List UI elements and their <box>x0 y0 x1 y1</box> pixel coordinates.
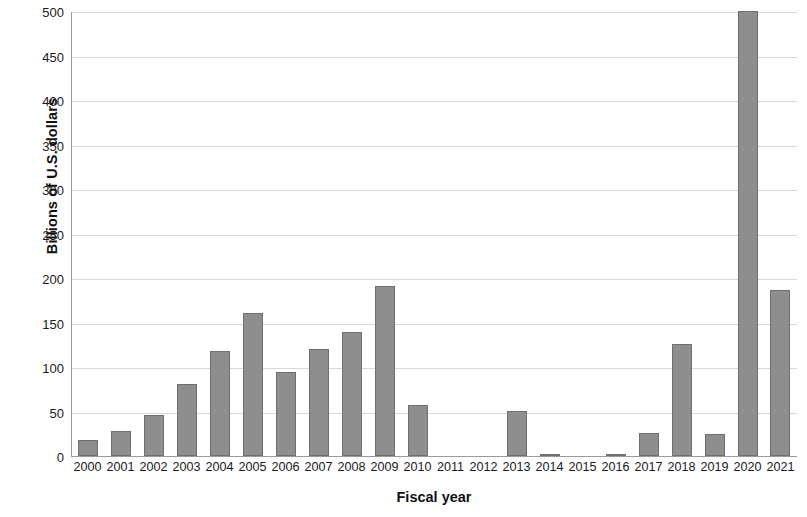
x-tick-label: 2016 <box>599 461 632 481</box>
bar-slot <box>270 12 303 456</box>
x-tick-label: 2019 <box>698 461 731 481</box>
x-tick-label: 2015 <box>566 461 599 481</box>
y-tick-label: 500 <box>26 6 64 19</box>
bar[interactable] <box>177 384 197 456</box>
x-tick-label: 2006 <box>269 461 302 481</box>
x-tick-label: 2014 <box>533 461 566 481</box>
bar-slot <box>467 12 500 456</box>
y-tick-label: 150 <box>26 317 64 330</box>
bar-slot <box>500 12 533 456</box>
y-tick-label: 450 <box>26 50 64 63</box>
y-tick-label: 50 <box>26 406 64 419</box>
x-tick-label: 2007 <box>302 461 335 481</box>
bar-slot <box>369 12 402 456</box>
x-tick-label: 2010 <box>401 461 434 481</box>
bar[interactable] <box>606 454 626 456</box>
x-tick-label: 2004 <box>203 461 236 481</box>
y-axis-tick-labels: 500450400350300250200150100500 <box>26 0 64 517</box>
x-tick-label: 2017 <box>632 461 665 481</box>
x-tick-label: 2003 <box>170 461 203 481</box>
bar[interactable] <box>705 434 725 456</box>
x-tick-label: 2021 <box>764 461 797 481</box>
x-tick-label: 2011 <box>434 461 467 481</box>
x-axis-tick-labels: 2000200120022003200420052006200720082009… <box>71 461 797 481</box>
x-tick-label: 2020 <box>731 461 764 481</box>
bar[interactable] <box>309 349 329 456</box>
y-tick-label: 350 <box>26 139 64 152</box>
bar-slot <box>204 12 237 456</box>
x-tick-label: 2001 <box>104 461 137 481</box>
bar[interactable] <box>78 440 98 456</box>
x-tick-label: 2009 <box>368 461 401 481</box>
bar-slot <box>665 12 698 456</box>
bar[interactable] <box>276 372 296 456</box>
x-tick-label: 2013 <box>500 461 533 481</box>
bar[interactable] <box>738 11 758 456</box>
y-tick-label: 250 <box>26 228 64 241</box>
y-tick-label: 200 <box>26 273 64 286</box>
x-tick-label: 2002 <box>137 461 170 481</box>
bar-slot <box>434 12 467 456</box>
bar-slot <box>731 12 764 456</box>
x-tick-label: 2000 <box>71 461 104 481</box>
bar[interactable] <box>770 290 790 456</box>
bar-slot <box>402 12 435 456</box>
bar-slot <box>105 12 138 456</box>
bar[interactable] <box>111 431 131 456</box>
bar-slot <box>72 12 105 456</box>
bar-slot <box>698 12 731 456</box>
y-tick-label: 100 <box>26 362 64 375</box>
x-tick-label: 2018 <box>665 461 698 481</box>
bar[interactable] <box>540 454 560 456</box>
bar-slot <box>303 12 336 456</box>
x-axis-title: Fiscal year <box>71 489 797 505</box>
x-tick-label: 2012 <box>467 461 500 481</box>
bar-slot <box>171 12 204 456</box>
bar-slot <box>599 12 632 456</box>
bar[interactable] <box>375 286 395 456</box>
y-tick-label: 300 <box>26 184 64 197</box>
bar[interactable] <box>639 433 659 456</box>
bar[interactable] <box>507 411 527 456</box>
x-tick-label: 2008 <box>335 461 368 481</box>
bar[interactable] <box>672 344 692 456</box>
bar[interactable] <box>144 415 164 456</box>
bar-slot <box>566 12 599 456</box>
bar-series <box>72 12 797 456</box>
bar-slot <box>632 12 665 456</box>
y-tick-label: 0 <box>26 451 64 464</box>
bar-slot <box>237 12 270 456</box>
bar-slot <box>764 12 797 456</box>
bar[interactable] <box>342 332 362 456</box>
x-tick-label: 2005 <box>236 461 269 481</box>
bar[interactable] <box>243 313 263 456</box>
bar-slot <box>336 12 369 456</box>
bar[interactable] <box>408 405 428 456</box>
plot-area <box>71 12 797 457</box>
bar-slot <box>533 12 566 456</box>
bar-slot <box>138 12 171 456</box>
bar[interactable] <box>210 351 230 456</box>
bar-chart-figure: Billions of U.S. dollars 500450400350300… <box>0 0 807 517</box>
y-tick-label: 400 <box>26 95 64 108</box>
